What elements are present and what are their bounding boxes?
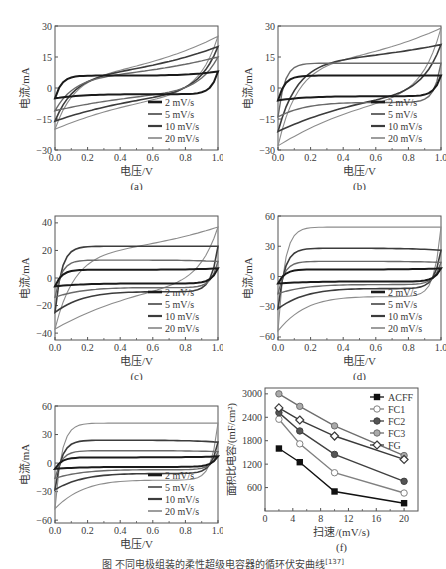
panel-c: 0.00.20.40.60.81.0−40−20020402 mV/s5 mV/…	[0, 190, 223, 380]
x-tick-label: 0.6	[147, 152, 160, 163]
y-tick-label: 30	[42, 429, 52, 440]
x-tick-label: 0.8	[402, 342, 415, 353]
y-tick-label: −30	[36, 145, 52, 156]
legend-label: 5 mV/s	[165, 482, 194, 493]
data-marker	[401, 500, 407, 506]
x-tick-label: 1.0	[435, 152, 446, 163]
x-tick-label: 16	[371, 513, 381, 524]
y-tick-label: 0	[47, 458, 52, 469]
data-marker	[331, 451, 337, 457]
legend: 2 mV/s5 mV/s10 mV/s20 mV/s	[371, 97, 422, 144]
x-tick-label: 0.8	[179, 152, 192, 163]
panel-label: (e)	[130, 553, 143, 555]
y-tick-label: 1800	[242, 435, 262, 446]
x-tick-label: 0.2	[304, 152, 317, 163]
x-axis-label: 电压/V	[120, 165, 153, 177]
legend-label: FC2	[388, 416, 405, 427]
panel-label: (a)	[130, 180, 143, 190]
legend-label: FC1	[388, 404, 405, 415]
y-tick-label: 30	[265, 241, 275, 252]
y-tick-label: 3000	[242, 388, 262, 399]
x-tick-label: 0.6	[147, 342, 160, 353]
x-tick-label: 0.8	[179, 342, 192, 353]
caption-reference: [137]	[325, 558, 344, 566]
x-tick-label: 0.2	[304, 342, 317, 353]
x-tick-label: 1.0	[212, 152, 223, 163]
x-axis-label: 电压/V	[343, 165, 376, 177]
panel-label: (b)	[353, 180, 366, 190]
cv-curve-2mVs	[278, 268, 441, 283]
y-tick-label: −15	[36, 114, 52, 125]
legend-label: 5 mV/s	[165, 299, 194, 310]
data-marker	[276, 391, 282, 397]
y-tick-label: 15	[265, 52, 275, 63]
legend-label: 20 mV/s	[165, 323, 199, 334]
y-tick-label: 0	[47, 83, 52, 94]
y-tick-label: 60	[42, 401, 52, 412]
x-tick-label: 0.4	[337, 152, 350, 163]
panel-label: (c)	[130, 370, 143, 380]
y-tick-label: 600	[247, 482, 262, 493]
x-tick-label: 0.0	[49, 525, 62, 536]
x-tick-label: 0.2	[81, 152, 94, 163]
x-tick-label: 0.8	[179, 525, 192, 536]
capacitance-chart-f: 0481216206001200180024003000ACFFFC1FC2FC…	[223, 380, 446, 555]
cv-curve-2mVs	[55, 456, 218, 468]
caption-text: 图 不同电极组装的柔性超级电容器的循环伏安曲线	[102, 559, 325, 569]
data-marker	[374, 418, 380, 424]
y-tick-label: 30	[265, 21, 275, 32]
x-axis-label: 电压/V	[120, 538, 153, 550]
legend: 2 mV/s5 mV/s10 mV/s20 mV/s	[371, 287, 422, 334]
legend-label: 2 mV/s	[165, 287, 194, 298]
x-tick-label: 0.4	[114, 525, 127, 536]
x-tick-label: 0.2	[81, 525, 94, 536]
y-tick-label: −60	[36, 515, 52, 526]
y-tick-label: 0	[47, 273, 52, 284]
x-tick-label: 0	[263, 513, 268, 524]
legend-label: 5 mV/s	[388, 109, 417, 120]
panel-d: 0.00.20.40.60.81.0−60−30030602 mV/s5 mV/…	[223, 190, 446, 380]
data-marker	[276, 416, 282, 422]
y-axis-label: 面积比电容/(mF/cm²)	[225, 403, 238, 496]
x-tick-label: 0.4	[114, 342, 127, 353]
y-tick-label: −60	[259, 331, 275, 342]
legend: 2 mV/s5 mV/s10 mV/s20 mV/s	[148, 470, 199, 517]
legend-label: 10 mV/s	[165, 121, 199, 132]
y-tick-label: 20	[42, 245, 52, 256]
x-tick-label: 0.4	[337, 342, 350, 353]
data-marker	[331, 432, 339, 440]
x-tick-label: 4	[290, 513, 295, 524]
x-tick-label: 0.0	[49, 342, 62, 353]
y-tick-label: −30	[259, 301, 275, 312]
legend-label: 5 mV/s	[388, 299, 417, 310]
legend-label: 10 mV/s	[165, 311, 199, 322]
y-tick-label: −40	[36, 328, 52, 339]
y-axis-label: 电流/mA	[241, 67, 254, 109]
legend-label: FG	[388, 440, 401, 451]
legend: 2 mV/s5 mV/s10 mV/s20 mV/s	[148, 97, 199, 144]
x-tick-label: 0.4	[114, 152, 127, 163]
y-tick-label: 2400	[242, 412, 262, 423]
legend: 2 mV/s5 mV/s10 mV/s20 mV/s	[148, 287, 199, 334]
x-tick-label: 0.2	[81, 342, 94, 353]
y-tick-label: 30	[42, 21, 52, 32]
data-marker	[331, 423, 337, 429]
y-tick-label: 0	[270, 271, 275, 282]
x-tick-label: 0.6	[147, 525, 160, 536]
cv-chart-e: 0.00.20.40.60.81.0−60−30030602 mV/s5 mV/…	[0, 380, 223, 555]
cv-chart-c: 0.00.20.40.60.81.0−40−20020402 mV/s5 mV/…	[0, 190, 223, 380]
legend-label: 20 mV/s	[388, 133, 422, 144]
x-tick-label: 1.0	[212, 525, 223, 536]
x-axis-label: 电压/V	[343, 355, 376, 367]
x-tick-label: 0.0	[272, 342, 285, 353]
legend-label: 20 mV/s	[388, 323, 422, 334]
data-marker	[297, 459, 303, 465]
x-tick-label: 0.8	[402, 152, 415, 163]
legend-label: 2 mV/s	[165, 97, 194, 108]
data-marker	[276, 445, 282, 451]
panel-a: 0.00.20.40.60.81.0−30−15015302 mV/s5 mV/…	[0, 0, 223, 190]
data-marker	[401, 478, 407, 484]
cv-chart-d: 0.00.20.40.60.81.0−60−30030602 mV/s5 mV/…	[223, 190, 446, 380]
y-tick-label: 0	[270, 83, 275, 94]
panel-label: (d)	[353, 370, 366, 380]
